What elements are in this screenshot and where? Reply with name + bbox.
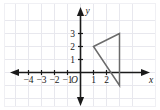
x-axis-arrow-left-icon [10, 69, 19, 76]
y-axis-tick-label: 2 [70, 42, 75, 52]
y-axis-tick-label: 3 [70, 29, 75, 39]
x-axis-tick-label: −4 [23, 75, 33, 85]
y-axis-tick-label: 1 [70, 55, 75, 65]
x-axis-tick-label: −3 [36, 75, 46, 85]
axes [10, 7, 150, 106]
x-axis-tick-labels: −4−3−2−112 [23, 75, 109, 85]
origin-label: O [71, 75, 78, 85]
y-axis-arrow-up-icon [77, 7, 84, 16]
y-axis-arrow-down-icon [77, 97, 84, 106]
x-axis-tick-label: 1 [91, 75, 96, 85]
x-axis-tick-label: −2 [49, 75, 59, 85]
x-axis-label: x [148, 75, 154, 85]
coordinate-plane-figure: −4−3−2−112 123 O x y [0, 0, 160, 110]
x-axis-tick-label: 2 [104, 75, 109, 85]
y-axis-label: y [84, 6, 90, 16]
coordinate-plane-svg: −4−3−2−112 123 O x y [0, 0, 160, 110]
y-axis-tick-labels: 123 [70, 29, 75, 65]
